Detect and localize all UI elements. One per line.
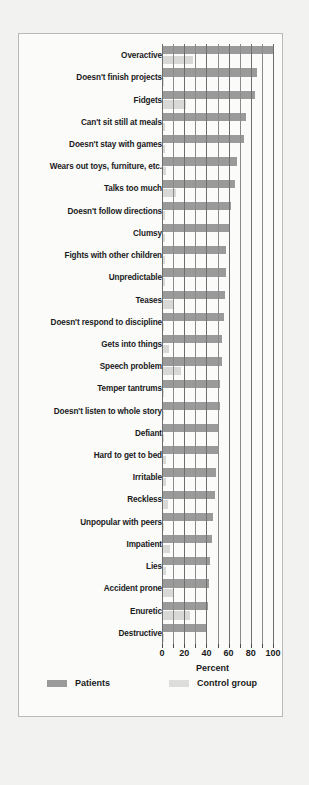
legend-swatch-patients bbox=[47, 680, 67, 687]
bar-patients bbox=[162, 46, 273, 54]
bar-control-group bbox=[162, 545, 170, 553]
chart-figure: OveractiveDoesn't finish projectsFidgets… bbox=[18, 33, 283, 717]
bar-group bbox=[162, 88, 273, 110]
legend-item-control-group: Control group bbox=[169, 678, 257, 688]
bar-patients bbox=[162, 557, 210, 565]
bar-patients bbox=[162, 535, 212, 543]
category-label: Fights with other children bbox=[22, 251, 162, 260]
chart-row: Doesn't finish projects bbox=[19, 66, 282, 88]
bar-group bbox=[162, 599, 273, 621]
chart-legend: Patients Control group bbox=[19, 678, 282, 698]
bar-patients bbox=[162, 91, 255, 99]
category-label: Unpopular with peers bbox=[22, 517, 162, 526]
bar-control-group bbox=[162, 211, 165, 219]
bar-control-group bbox=[162, 634, 164, 642]
bar-group bbox=[162, 422, 273, 444]
bar-group bbox=[162, 44, 273, 66]
bar-control-group bbox=[162, 100, 186, 108]
bar-control-group bbox=[162, 456, 166, 464]
bar-rows: OveractiveDoesn't finish projectsFidgets… bbox=[19, 44, 282, 644]
bar-patients bbox=[162, 468, 216, 476]
bar-patients bbox=[162, 157, 237, 165]
chart-row: Enuretic bbox=[19, 599, 282, 621]
bar-control-group bbox=[162, 234, 165, 242]
category-label: Can't sit still at meals bbox=[22, 117, 162, 126]
bar-group bbox=[162, 466, 273, 488]
bar-group bbox=[162, 244, 273, 266]
bar-patients bbox=[162, 113, 246, 121]
chart-row: Overactive bbox=[19, 44, 282, 66]
bar-patients bbox=[162, 402, 220, 410]
x-tick bbox=[262, 644, 263, 648]
x-tick-label: 60 bbox=[224, 648, 234, 658]
bar-control-group bbox=[162, 567, 166, 575]
category-label: Reckless bbox=[22, 495, 162, 504]
chart-row: Doesn't listen to whole story bbox=[19, 400, 282, 422]
bar-patients bbox=[162, 491, 215, 499]
bar-patients bbox=[162, 68, 257, 76]
bar-control-group bbox=[162, 278, 165, 286]
x-tick-label: 100 bbox=[265, 648, 280, 658]
bar-control-group bbox=[162, 123, 165, 131]
legend-label-patients: Patients bbox=[75, 678, 110, 688]
bar-group bbox=[162, 622, 273, 644]
x-tick bbox=[240, 644, 241, 648]
x-tick bbox=[218, 644, 219, 648]
bar-group bbox=[162, 555, 273, 577]
chart-row: Hard to get to bed bbox=[19, 444, 282, 466]
bar-control-group bbox=[162, 367, 181, 375]
category-label: Irritable bbox=[22, 473, 162, 482]
bar-patients bbox=[162, 202, 231, 210]
bar-patients bbox=[162, 135, 244, 143]
bar-group bbox=[162, 155, 273, 177]
bar-control-group bbox=[162, 145, 165, 153]
bar-patients bbox=[162, 268, 226, 276]
bar-patients bbox=[162, 180, 235, 188]
category-label: Temper tantrums bbox=[22, 384, 162, 393]
chart-row: Unpredictable bbox=[19, 266, 282, 288]
category-label: Gets into things bbox=[22, 339, 162, 348]
x-tick bbox=[195, 644, 196, 648]
bar-group bbox=[162, 111, 273, 133]
chart-row: Clumsy bbox=[19, 222, 282, 244]
x-tick-label: 0 bbox=[159, 648, 164, 658]
category-label: Unpredictable bbox=[22, 273, 162, 282]
bar-patients bbox=[162, 335, 222, 343]
legend-item-patients: Patients bbox=[47, 678, 110, 688]
bar-group bbox=[162, 511, 273, 533]
x-tick-label: 20 bbox=[179, 648, 189, 658]
bar-control-group bbox=[162, 345, 169, 353]
bar-control-group bbox=[162, 478, 166, 486]
bar-patients bbox=[162, 579, 209, 587]
category-label: Teases bbox=[22, 295, 162, 304]
chart-row: Fidgets bbox=[19, 88, 282, 110]
category-label: Doesn't listen to whole story bbox=[22, 406, 162, 415]
bar-group bbox=[162, 577, 273, 599]
bar-group bbox=[162, 200, 273, 222]
chart-row: Can't sit still at meals bbox=[19, 111, 282, 133]
chart-row: Lies bbox=[19, 555, 282, 577]
x-axis: 020406080100 bbox=[162, 644, 273, 662]
category-label: Lies bbox=[22, 562, 162, 571]
bar-patients bbox=[162, 291, 225, 299]
bar-control-group bbox=[162, 256, 165, 264]
category-label: Clumsy bbox=[22, 228, 162, 237]
chart-row: Fights with other children bbox=[19, 244, 282, 266]
bar-control-group bbox=[162, 78, 164, 86]
bar-group bbox=[162, 266, 273, 288]
bar-patients bbox=[162, 513, 213, 521]
chart-row: Temper tantrums bbox=[19, 377, 282, 399]
chart-row: Teases bbox=[19, 288, 282, 310]
bar-control-group bbox=[162, 56, 193, 64]
bar-patients bbox=[162, 224, 229, 232]
chart-row: Doesn't follow directions bbox=[19, 200, 282, 222]
bar-control-group bbox=[162, 411, 164, 419]
bar-control-group bbox=[162, 589, 173, 597]
x-tick-label: 80 bbox=[246, 648, 256, 658]
bar-group bbox=[162, 288, 273, 310]
chart-row: Defiant bbox=[19, 422, 282, 444]
bar-group bbox=[162, 222, 273, 244]
bar-group bbox=[162, 377, 273, 399]
chart-row: Unpopular with peers bbox=[19, 511, 282, 533]
bar-patients bbox=[162, 446, 218, 454]
